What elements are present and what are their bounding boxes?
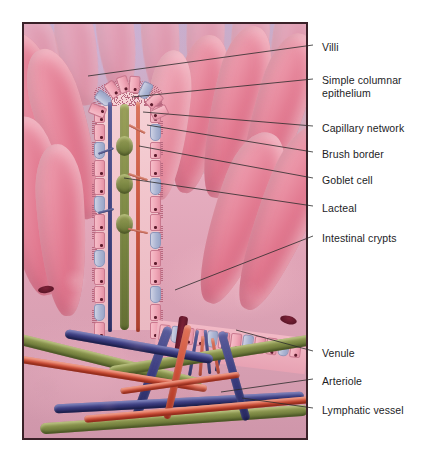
label-brush-border: Brush border [322,148,384,161]
anatomy-figure: VilliSimple columnar epitheliumCapillary… [0,0,424,464]
label-lymphatic-vessel: Lymphatic vessel [322,404,404,417]
illustration-frame [22,22,308,440]
label-arteriole: Arteriole [322,375,362,388]
label-capillary-network: Capillary network [322,122,404,135]
illustration-canvas [24,24,306,438]
label-lacteal: Lacteal [322,202,357,215]
label-villi: Villi [322,41,339,54]
tissue-texture-overlay [24,24,306,438]
label-venule: Venule [322,347,355,360]
label-goblet-cell: Goblet cell [322,174,373,187]
label-intestinal-crypts: Intestinal crypts [322,232,397,245]
label-simple-columnar: Simple columnar epithelium [322,74,402,99]
